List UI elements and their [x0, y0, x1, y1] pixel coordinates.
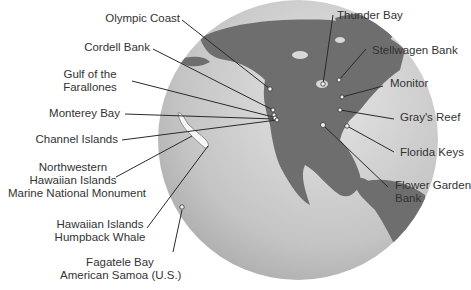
marker-channel-islands — [275, 118, 279, 122]
marker-thunder-bay — [321, 82, 325, 86]
label-hawaiian-humpback-whale: Hawaiian Islands Humpback Whale — [50, 218, 150, 244]
label-olympic-coast: Olympic Coast — [80, 12, 180, 25]
marker-stellwagen — [337, 78, 341, 82]
label-monterey-bay: Monterey Bay — [30, 107, 120, 120]
marker-fagatele-bay — [180, 205, 184, 209]
marker-monitor — [340, 95, 344, 99]
label-florida-keys: Florida Keys — [400, 146, 464, 159]
label-gulf-farallones: Gulf of the Farallones — [50, 68, 130, 94]
label-channel-islands: Channel Islands — [20, 133, 118, 146]
marker-cordell-bank — [271, 108, 275, 112]
label-nw-hawaiian-islands: Northwestern Hawaiian Islands Marine Nat… — [8, 161, 138, 200]
label-grays-reef: Gray's Reef — [400, 111, 460, 124]
label-stellwagen-bank: Stellwagen Bank — [372, 44, 458, 57]
marker-florida-keys — [345, 124, 349, 128]
label-cordell-bank: Cordell Bank — [60, 41, 150, 54]
label-fagatele-bay: Fagatele Bay American Samoa (U.S.) — [60, 256, 180, 282]
marker-olympic-coast — [268, 87, 272, 91]
marker-grays-reef — [338, 108, 342, 112]
label-flower-garden-bank: Flower Garden Bank — [395, 179, 471, 205]
label-thunder-bay: Thunder Bay — [337, 9, 403, 22]
label-monitor: Monitor — [390, 77, 428, 90]
marker-flower-garden — [321, 123, 326, 128]
